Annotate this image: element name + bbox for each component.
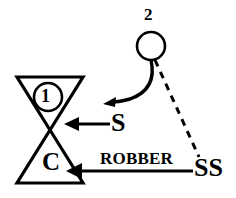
node-2-circle — [137, 32, 165, 60]
edge-s-label: S — [111, 110, 125, 136]
robber-arrow-head — [66, 163, 82, 179]
node-c-label: C — [42, 149, 60, 174]
node-1-label: 1 — [41, 87, 50, 105]
curved-arrow-line — [112, 60, 152, 102]
curved-arrow-head — [103, 97, 116, 107]
edge-robber-label: ROBBER — [100, 150, 173, 167]
diagram-canvas: 2 1 C S SS ROBBER — [0, 0, 236, 198]
edge-ss-label: SS — [194, 155, 223, 181]
dashed-connector-line — [155, 60, 199, 157]
node-2-label: 2 — [144, 6, 153, 23]
s-arrow-head — [64, 117, 79, 131]
